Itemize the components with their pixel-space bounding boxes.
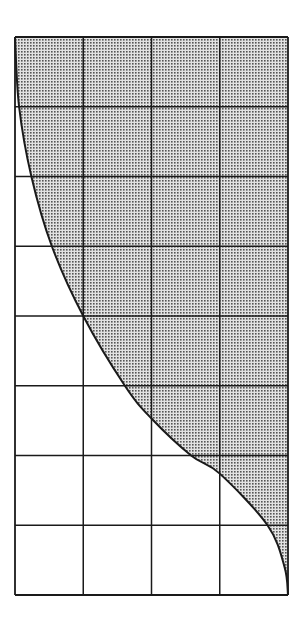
grid-figure xyxy=(0,0,305,624)
